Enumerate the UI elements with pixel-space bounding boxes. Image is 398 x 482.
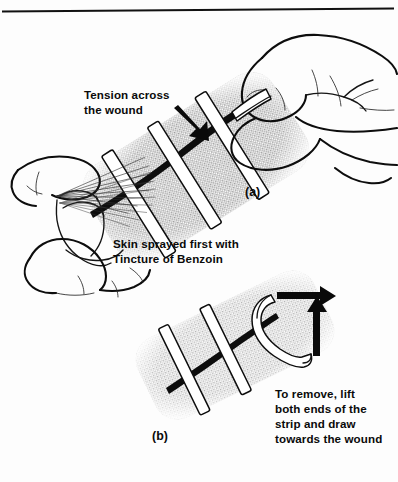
top-divider-rule (2, 9, 394, 12)
panel-b-label: (b) (152, 429, 168, 443)
benzoin-label-line1: Skin sprayed first with (113, 237, 239, 250)
benzoin-label-line2: Tincture of Benzoin (113, 252, 223, 265)
remove-label-line2: both ends of the (275, 402, 367, 415)
remove-label-line1: To remove, lift (275, 387, 355, 400)
wound-closure-figure: Tension across the wound (a) Skin spraye… (0, 0, 398, 482)
remove-label-line3: strip and draw (275, 417, 357, 430)
panel-a-label: (a) (245, 185, 260, 199)
remove-label-line4: towards the wound (275, 432, 382, 445)
tension-label-line1: Tension across (84, 88, 170, 101)
panel-b: (b) To remove, lift both ends of the str… (125, 260, 382, 445)
tension-label-line2: the wound (84, 103, 143, 116)
